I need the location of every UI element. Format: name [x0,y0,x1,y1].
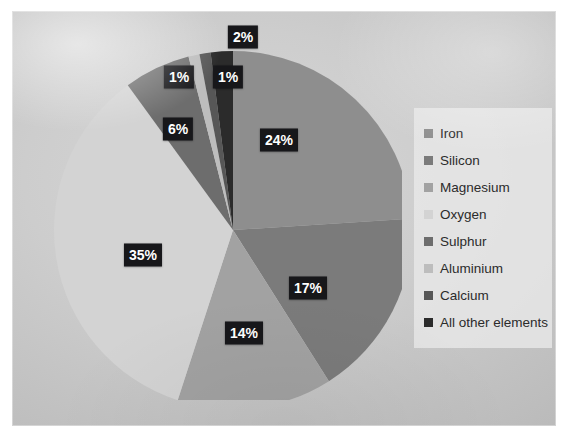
legend-swatch-icon [424,210,433,219]
legend-item-silicon[interactable]: Silicon [424,147,544,174]
pie-data-label: 35% [124,244,162,267]
legend-item-label: Calcium [440,288,489,303]
pie-data-label: 2% [228,26,258,49]
pie-data-label: 14% [225,322,263,345]
legend-item-label: Magnesium [440,180,510,195]
pie-svg [42,40,402,400]
legend-swatch-icon [424,318,433,327]
legend-item-all-other-elements[interactable]: All other elements [424,309,544,336]
legend-swatch-icon [424,183,433,192]
pie-data-label: 24% [260,129,298,152]
legend-swatch-icon [424,129,433,138]
pie-data-label: 1% [213,66,243,89]
legend-item-label: Sulphur [440,234,487,249]
legend-item-label: Oxygen [440,207,487,222]
legend-swatch-icon [424,156,433,165]
legend-item-magnesium[interactable]: Magnesium [424,174,544,201]
legend-item-label: Iron [440,126,463,141]
chart-screenshot: 24%17%14%35%6%1%1%2% IronSiliconMagnesiu… [0,0,573,434]
legend-swatch-icon [424,264,433,273]
legend-item-aluminium[interactable]: Aluminium [424,255,544,282]
legend-item-label: All other elements [440,315,548,330]
chart-board: 24%17%14%35%6%1%1%2% IronSiliconMagnesiu… [12,11,556,426]
pie-data-label: 6% [163,118,193,141]
legend-swatch-icon [424,237,433,246]
legend-item-oxygen[interactable]: Oxygen [424,201,544,228]
pie-data-label: 1% [164,66,194,89]
legend-item-sulphur[interactable]: Sulphur [424,228,544,255]
pie-slice-iron[interactable] [233,51,402,230]
chart-legend: IronSiliconMagnesiumOxygenSulphurAlumini… [414,108,552,348]
legend-swatch-icon [424,291,433,300]
legend-item-label: Silicon [440,153,480,168]
legend-item-iron[interactable]: Iron [424,120,544,147]
pie-slice-group [54,51,402,400]
pie-data-label: 17% [289,277,327,300]
legend-item-calcium[interactable]: Calcium [424,282,544,309]
legend-item-label: Aluminium [440,261,503,276]
pie-chart [42,40,402,400]
